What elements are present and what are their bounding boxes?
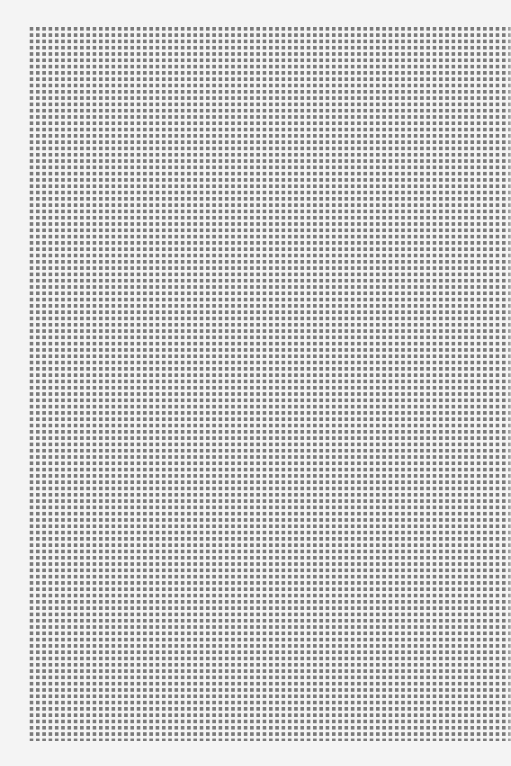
dot-grid-pattern: [27, 27, 511, 741]
